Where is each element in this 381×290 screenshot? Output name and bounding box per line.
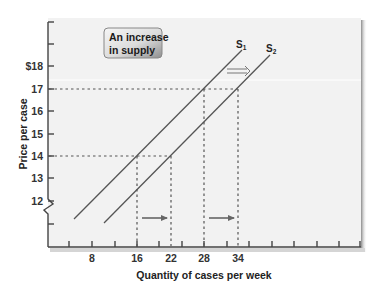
x-tick-16: 16 <box>131 252 143 264</box>
y-axis-title: Price per case <box>17 98 29 169</box>
y-tick-18: $18 <box>25 60 43 72</box>
supply-shift-chart: $18 17 16 15 14 13 12 8 16 22 28 34 Quan… <box>0 0 381 290</box>
callout-line-2: in supply <box>109 44 155 56</box>
panel-shadow-right <box>361 20 367 252</box>
x-tick-28: 28 <box>198 252 210 264</box>
callout-an-increase-in-supply: An increase in supply <box>104 28 169 58</box>
y-tick-14: 14 <box>31 150 43 162</box>
y-tick-17: 17 <box>31 83 43 95</box>
x-tick-8: 8 <box>89 252 95 264</box>
x-tick-34: 34 <box>232 252 244 264</box>
x-axis-title: Quantity of cases per week <box>136 269 272 281</box>
y-tick-13: 13 <box>31 172 43 184</box>
callout-line-1: An increase <box>109 31 169 43</box>
y-tick-15: 15 <box>31 128 43 140</box>
y-tick-12: 12 <box>31 195 43 207</box>
x-tick-22: 22 <box>165 252 177 264</box>
y-tick-16: 16 <box>31 105 43 117</box>
